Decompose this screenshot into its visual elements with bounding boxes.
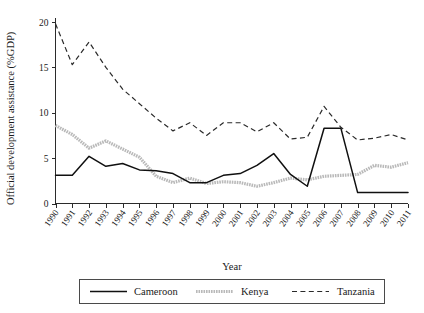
x-tick-label: 2000 <box>210 208 229 229</box>
y-tick-label: 20 <box>39 18 49 28</box>
y-axis-title-text: Official development assistance (%GDP) <box>5 31 17 205</box>
x-tick-label: 2010 <box>378 208 397 229</box>
x-tick-label: 1996 <box>143 208 162 229</box>
y-tick-label: 15 <box>39 63 49 73</box>
series-line-kenya <box>56 125 409 186</box>
x-tick-label: 1998 <box>176 208 195 229</box>
y-axis-ticks: 05101520 <box>39 18 56 210</box>
x-tick-label: 2007 <box>327 208 346 229</box>
chart-figure: Official development assistance (%GDP) 0… <box>0 0 424 313</box>
x-tick-label: 1999 <box>193 208 212 229</box>
legend-label-cameroon: Cameroon <box>134 286 178 297</box>
x-tick-label: 1993 <box>92 208 111 229</box>
y-tick-label: 10 <box>39 108 49 118</box>
x-tick-label: 2011 <box>395 208 413 228</box>
x-tick-label: 2002 <box>244 208 263 228</box>
x-tick-label: 1997 <box>160 208 179 229</box>
legend-label-kenya: Kenya <box>241 286 269 297</box>
x-tick-label: 2003 <box>260 208 279 229</box>
legend-label-tanzania: Tanzania <box>337 286 375 297</box>
x-tick-label: 2001 <box>227 208 246 228</box>
x-tick-label: 2009 <box>361 208 380 229</box>
x-tick-label: 1995 <box>126 208 145 229</box>
series-line-tanzania <box>56 24 409 140</box>
legend-item-kenya: Kenya <box>196 286 269 297</box>
x-axis-title: Year <box>222 261 242 272</box>
x-tick-label: 2004 <box>277 208 296 229</box>
y-tick-label: 0 <box>44 199 49 209</box>
x-tick-label: 1990 <box>42 208 61 229</box>
x-tick-label: 1992 <box>76 208 95 228</box>
chart-legend: Cameroon Kenya Tanzania <box>80 280 385 304</box>
x-tick-label: 1994 <box>109 208 128 229</box>
y-axis-title: Official development assistance (%GDP) <box>5 31 17 205</box>
x-axis-title-text: Year <box>222 261 242 272</box>
legend-item-cameroon: Cameroon <box>90 286 178 297</box>
x-tick-label: 2005 <box>294 208 313 229</box>
series-layer <box>56 24 409 193</box>
x-axis-ticks: 1990199119921993199419951996199719981999… <box>42 204 413 229</box>
y-tick-label: 5 <box>44 154 49 164</box>
x-tick-label: 1991 <box>59 208 78 228</box>
legend-item-tanzania: Tanzania <box>292 286 375 297</box>
x-tick-label: 2008 <box>344 208 363 229</box>
line-chart: Official development assistance (%GDP) 0… <box>0 0 424 313</box>
x-tick-label: 2006 <box>311 208 330 229</box>
